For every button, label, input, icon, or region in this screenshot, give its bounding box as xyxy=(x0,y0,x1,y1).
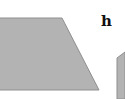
partial-shape-right xyxy=(117,52,125,99)
trapezoid-shape xyxy=(0,18,99,90)
label-h: h xyxy=(101,14,112,29)
